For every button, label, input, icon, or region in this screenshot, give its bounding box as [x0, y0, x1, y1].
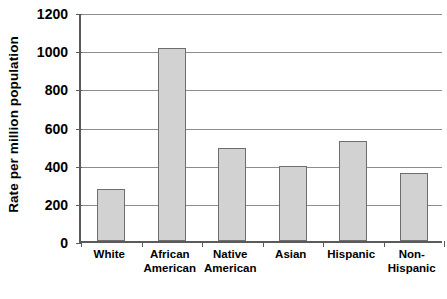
x-tick-mark — [81, 241, 82, 247]
x-tick-label: Non-Hispanic — [382, 248, 443, 275]
bar — [97, 189, 125, 241]
x-tick-label: Hispanic — [321, 248, 382, 262]
bar — [400, 173, 428, 241]
bar-chart: Rate per million population 020040060080… — [0, 0, 447, 299]
x-tick-label: Asian — [261, 248, 322, 262]
y-tick-label: 400 — [45, 159, 68, 175]
bar — [339, 141, 367, 241]
y-tick-label: 0 — [60, 235, 68, 251]
bars-group — [81, 14, 442, 241]
x-tick-label: Native American — [200, 248, 261, 275]
x-tick-mark — [444, 241, 445, 247]
y-axis-title-label: Rate per million population — [6, 36, 21, 213]
y-tick-label: 1200 — [37, 6, 68, 22]
y-tick-label: 200 — [45, 197, 68, 213]
bar — [218, 148, 246, 242]
y-axis-tick-labels: 020040060080010001200 — [26, 14, 74, 243]
plot-area — [79, 14, 442, 243]
x-tick-label: African American — [140, 248, 201, 275]
bar — [279, 166, 307, 241]
x-tick-mark — [202, 241, 203, 247]
x-axis-tick-labels: WhiteAfrican AmericanNative AmericanAsia… — [79, 248, 442, 294]
y-tick-label: 800 — [45, 82, 68, 98]
y-axis-title: Rate per million population — [0, 0, 26, 248]
y-tick-label: 600 — [45, 121, 68, 137]
bar — [158, 48, 186, 241]
y-tick-label: 1000 — [37, 44, 68, 60]
x-tick-mark — [142, 241, 143, 247]
x-tick-label: White — [79, 248, 140, 262]
x-tick-mark — [323, 241, 324, 247]
x-tick-mark — [384, 241, 385, 247]
x-tick-mark — [263, 241, 264, 247]
